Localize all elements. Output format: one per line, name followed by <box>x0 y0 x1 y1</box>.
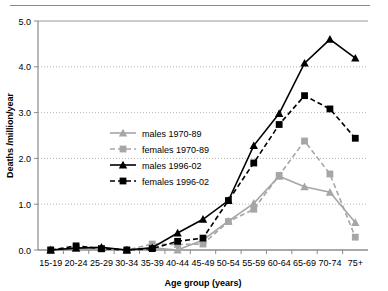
y-tick-label: 2.0 <box>18 154 31 164</box>
data-point <box>301 92 308 99</box>
legend-label: females 1996-02 <box>142 177 209 187</box>
legend-label: males 1996-02 <box>142 161 202 171</box>
y-tick-label: 1.0 <box>18 200 31 210</box>
data-point <box>123 247 130 254</box>
x-tick-label: 40-44 <box>166 258 189 268</box>
series-line <box>51 141 356 250</box>
line-chart: 0.01.02.03.04.05.0 15-1920-2425-2930-343… <box>0 0 388 291</box>
legend-marker <box>120 146 127 153</box>
data-point <box>47 247 54 254</box>
x-tick-label: 65-69 <box>293 258 316 268</box>
y-tick-label: 5.0 <box>18 17 31 27</box>
data-point <box>250 206 257 213</box>
data-point <box>73 242 80 249</box>
y-tick-label: 4.0 <box>18 62 31 72</box>
chart-legend: males 1970-89females 1970-89males 1996-0… <box>110 129 209 187</box>
data-point <box>225 197 232 204</box>
x-axis-ticks: 15-1920-2425-2930-3435-3940-4445-4950-54… <box>39 250 363 268</box>
x-axis-title: Age group (years) <box>164 278 241 288</box>
data-point <box>98 245 105 252</box>
x-tick-label: 60-64 <box>268 258 291 268</box>
data-point <box>326 35 334 43</box>
x-tick-label: 75+ <box>348 258 363 268</box>
data-point <box>174 238 181 245</box>
x-tick-label: 45-49 <box>191 258 214 268</box>
data-point <box>200 241 207 248</box>
x-tick-label: 20-24 <box>65 258 88 268</box>
x-tick-label: 25-29 <box>90 258 113 268</box>
legend-marker <box>120 178 127 185</box>
data-point <box>276 172 283 179</box>
x-tick-label: 30-34 <box>115 258 138 268</box>
data-point <box>200 235 207 242</box>
data-point <box>225 218 232 225</box>
x-tick-label: 70-74 <box>318 258 341 268</box>
data-point <box>352 135 359 142</box>
legend-label: females 1970-89 <box>142 145 209 155</box>
figure-container: 0.01.02.03.04.05.0 15-1920-2425-2930-343… <box>0 0 388 291</box>
data-point <box>327 106 334 113</box>
x-tick-label: 15-19 <box>39 258 62 268</box>
data-point <box>352 234 359 241</box>
y-axis-title: Deaths /million/year <box>5 92 15 178</box>
data-point <box>149 245 156 252</box>
series-line <box>51 96 356 250</box>
y-tick-label: 0.0 <box>18 246 31 256</box>
data-point <box>276 121 283 128</box>
data-point <box>173 229 181 237</box>
data-point <box>327 171 334 178</box>
y-tick-label: 3.0 <box>18 108 31 118</box>
data-point <box>301 138 308 145</box>
y-axis-ticks: 0.01.02.03.04.05.0 <box>18 17 38 256</box>
x-tick-label: 55-59 <box>242 258 265 268</box>
legend-label: males 1970-89 <box>142 129 202 139</box>
data-point <box>250 160 257 167</box>
x-tick-label: 35-39 <box>141 258 164 268</box>
series-females-1996-02 <box>47 92 358 253</box>
x-tick-label: 50-54 <box>217 258 240 268</box>
data-point <box>275 109 283 117</box>
